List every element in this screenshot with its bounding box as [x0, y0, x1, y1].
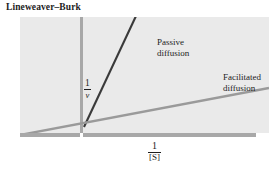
x-axis-origin-notch: [80, 133, 83, 137]
series-label-facilitated-line1: Facilitated: [223, 72, 261, 82]
series-label-passive-line1: Passive: [157, 37, 184, 47]
x-axis-label-numerator: 1: [148, 141, 161, 151]
series-label-facilitated-line2: diffusion: [223, 83, 261, 94]
series-label-passive-line2: diffusion: [157, 48, 189, 59]
plot-panel: Passive diffusion Facilitated diffusion …: [20, 17, 269, 133]
x-axis-label-denominator: [S]: [148, 153, 161, 162]
series-label-passive-diffusion: Passive diffusion: [157, 37, 189, 59]
y-axis-label-numerator: 1: [84, 79, 91, 89]
y-axis-label: 1 v: [84, 79, 91, 99]
series-label-facilitated-diffusion: Facilitated diffusion: [223, 72, 261, 94]
x-axis-line: [20, 133, 256, 137]
x-axis-label: 1 [S]: [148, 141, 161, 162]
y-axis-label-denominator: v: [84, 91, 91, 100]
page-title: Lineweaver–Burk: [6, 2, 81, 12]
